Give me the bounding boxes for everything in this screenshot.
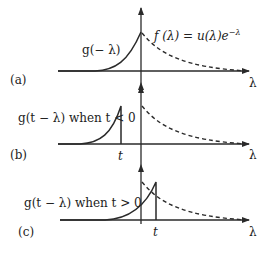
panel-a: g(− λ) f (λ) = u(λ)e−λ (a) λ xyxy=(10,8,257,90)
panel-label-c: (c) xyxy=(18,225,34,239)
tick-label-t-c: t xyxy=(153,225,158,239)
tick-label-t-b: t xyxy=(118,149,123,163)
label-g-minus-lambda: g(− λ) xyxy=(82,43,121,57)
label-g-t-minus-lambda-pos: g(t − λ) when t > 0 xyxy=(24,196,142,210)
panel-label-a: (a) xyxy=(10,73,27,87)
axis-label-lambda-c: λ xyxy=(249,225,257,239)
curve-f-lambda-c xyxy=(142,182,246,220)
convolution-diagram: g(− λ) f (λ) = u(λ)e−λ (a) λ g(t − λ) wh… xyxy=(0,0,271,259)
panel-c: g(t − λ) when t > 0 t (c) λ xyxy=(18,170,257,239)
label-g-t-minus-lambda-neg: g(t − λ) when t < 0 xyxy=(18,111,136,125)
label-f-lambda: f (λ) = u(λ)e−λ xyxy=(153,28,241,43)
axis-label-lambda-b: λ xyxy=(249,148,257,162)
curve-f-lambda-b xyxy=(142,106,246,144)
panel-label-b: (b) xyxy=(10,148,27,162)
panel-b: g(t − λ) when t < 0 t (b) λ xyxy=(10,86,257,172)
axis-label-lambda-a: λ xyxy=(249,76,257,90)
